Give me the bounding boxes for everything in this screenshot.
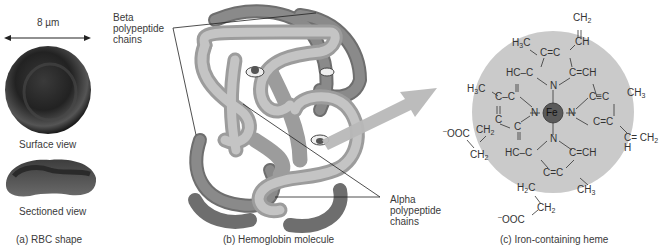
methyl-bottom: CH3 <box>577 185 595 195</box>
methyl-top-left: H3C <box>512 38 530 48</box>
ring-right-c-c2: C=C <box>593 117 613 127</box>
caption-c: (c) Iron-containing heme <box>500 234 608 245</box>
methyl-left: H3C <box>467 84 485 94</box>
ring-bottom-cc: C=C <box>543 168 563 178</box>
vinyl-top-ch: CH <box>575 37 589 47</box>
propionate-left-ch2a: CH2 <box>476 125 494 135</box>
n-bottom: N <box>550 134 557 144</box>
ring-bottom-hc-c: HC–C <box>505 148 532 158</box>
methyl-right: CH3 <box>627 88 645 98</box>
n-left: N <box>531 108 538 118</box>
ring-top-c-ch: C=CH <box>569 68 597 78</box>
ring-left-c-c: C–C <box>495 92 515 102</box>
propionate-bottom-h2c: H2C <box>517 183 535 193</box>
ring-top-hc-c: HC–C <box>506 68 533 78</box>
n-right: N <box>568 108 575 118</box>
heme-graphics <box>0 0 667 248</box>
ring-left-c2: C <box>514 122 521 132</box>
vinyl-top-ch2: CH2 <box>573 13 591 23</box>
n-top: N <box>550 81 557 91</box>
ring-top-cc: C=C <box>540 48 560 58</box>
ring-left-c: C <box>495 115 502 125</box>
fe-label: Fe <box>546 108 558 118</box>
propionate-left-cooh: –OOC <box>443 129 470 139</box>
propionate-left-ch2b: CH2 <box>470 150 488 160</box>
propionate-bottom-ch2: CH2 <box>537 203 555 213</box>
vinyl-right-h: H <box>624 143 631 153</box>
ring-bottom-c-ch: C=CH <box>569 148 597 158</box>
propionate-bottom-cooh: –OOC <box>498 215 525 225</box>
ring-right-c-c: C≡C <box>589 92 609 102</box>
